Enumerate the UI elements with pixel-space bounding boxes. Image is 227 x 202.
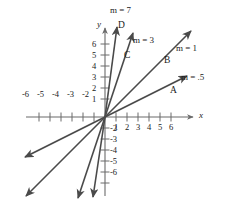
y-tick-6: 6 bbox=[92, 40, 96, 49]
line-label-c: C bbox=[124, 51, 130, 61]
y-tick-4: 4 bbox=[92, 62, 96, 71]
y-tick--6: -6 bbox=[110, 168, 117, 177]
x-tick--3: -3 bbox=[67, 90, 74, 99]
x-tick-6: 6 bbox=[169, 123, 173, 132]
slope-label-d: m = 7 bbox=[110, 6, 131, 15]
x-tick--5: -5 bbox=[37, 90, 44, 99]
graph-figure: x y -6 -5 -4 -3 -2 1 2 3 4 5 6 6 5 4 3 2… bbox=[0, 0, 227, 202]
x-tick-5: 5 bbox=[158, 123, 162, 132]
x-tick-4: 4 bbox=[147, 123, 151, 132]
x-tick-2: 2 bbox=[125, 123, 129, 132]
slope-label-a: m = .5 bbox=[181, 73, 204, 82]
x-tick--2: -2 bbox=[82, 90, 89, 99]
line-label-d: D bbox=[118, 21, 125, 31]
y-tick-2: 2 bbox=[92, 84, 96, 93]
y-tick--2: -2 bbox=[110, 124, 117, 133]
y-tick--5: -5 bbox=[110, 157, 117, 166]
x-axis bbox=[26, 113, 193, 122]
slope-label-b: m = 1 bbox=[176, 44, 197, 53]
x-axis-label: x bbox=[199, 111, 203, 120]
y-tick-3: 3 bbox=[92, 73, 96, 82]
slope-label-c: m = 3 bbox=[133, 36, 154, 45]
y-tick--4: -4 bbox=[110, 146, 117, 155]
x-tick--4: -4 bbox=[52, 90, 59, 99]
y-tick--3: -3 bbox=[110, 135, 117, 144]
line-label-a: A bbox=[170, 86, 177, 96]
y-tick-5: 5 bbox=[92, 51, 96, 60]
y-axis-label: y bbox=[97, 20, 101, 29]
x-tick-3: 3 bbox=[136, 123, 140, 132]
line-label-b: B bbox=[164, 56, 170, 66]
y-tick-1: 1 bbox=[92, 95, 96, 104]
x-tick--6: -6 bbox=[22, 90, 29, 99]
